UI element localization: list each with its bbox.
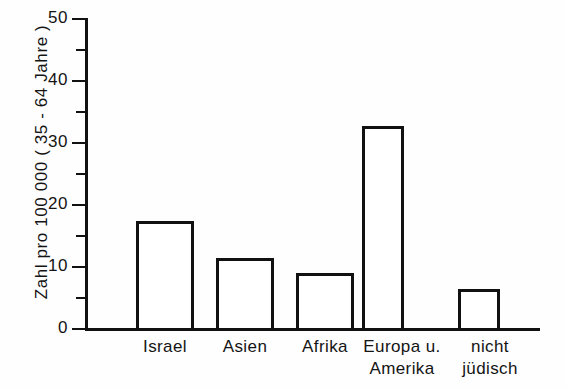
x-tick-line-1: nicht xyxy=(462,336,518,358)
y-minor-tick-45 xyxy=(76,49,85,51)
y-minor-tick-25 xyxy=(76,173,85,175)
x-tick-line: Afrika xyxy=(302,336,348,358)
bar-chart-figure: Zahl pro 100 000 ( 35 - 64 Jahre ) 0 10 … xyxy=(0,0,567,388)
y-tick-mark xyxy=(72,266,85,268)
y-tick-mark xyxy=(72,204,85,206)
y-minor-tick-35 xyxy=(76,111,85,113)
y-tick-label: 30 xyxy=(48,132,68,152)
x-tick-label-nicht-juedisch: nicht jüdisch xyxy=(462,336,518,380)
x-tick-label-afrika: Afrika xyxy=(302,336,348,358)
bar-asien xyxy=(216,258,274,328)
y-tick-mark xyxy=(72,80,85,82)
y-tick-label: 40 xyxy=(48,70,68,90)
x-axis-spine xyxy=(85,328,540,331)
bar-israel xyxy=(136,221,194,328)
x-tick-label-israel: Israel xyxy=(143,336,187,358)
y-tick-label: 0 xyxy=(58,318,68,338)
bar-europa-amerika xyxy=(362,126,404,328)
x-tick-label-europa-amerika: Europa u. Amerika xyxy=(363,336,440,380)
y-axis-spine xyxy=(85,18,88,330)
y-minor-tick-15 xyxy=(76,235,85,237)
bar-afrika xyxy=(296,273,354,328)
bar-nicht-juedisch xyxy=(458,289,500,328)
y-minor-tick-5 xyxy=(76,297,85,299)
x-tick-line-2: jüdisch xyxy=(462,358,518,380)
x-tick-line-1: Europa u. xyxy=(363,336,440,358)
y-tick-label: 10 xyxy=(48,256,68,276)
x-tick-line: Israel xyxy=(143,336,187,358)
y-tick-mark xyxy=(72,142,85,144)
x-tick-label-asien: Asien xyxy=(223,336,268,358)
x-tick-line: Asien xyxy=(223,336,268,358)
x-tick-line-2: Amerika xyxy=(363,358,440,380)
y-tick-mark xyxy=(72,18,85,20)
y-tick-mark xyxy=(72,328,85,330)
plot-area: 0 10 20 30 40 50 xyxy=(85,18,540,328)
y-tick-label: 20 xyxy=(48,194,68,214)
y-tick-label: 50 xyxy=(48,8,68,28)
